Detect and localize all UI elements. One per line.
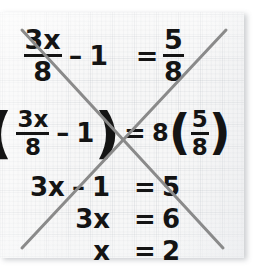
constant-one: 1 (76, 118, 94, 148)
equation-line-4: 3x = 6 (0, 204, 244, 234)
minus-operator: – (72, 172, 85, 202)
open-parenthesis: ( (0, 116, 12, 151)
equation-line-2: 8 ( 3x 8 – 1 ) = 8 ( 5 (0, 98, 244, 168)
line-3-left-side: 3x – 1 (30, 172, 110, 202)
worksheet-scan: 3x 8 – 1 = 5 8 8 ( (0, 0, 263, 271)
fraction-numerator: 5 (191, 108, 209, 131)
term-x: x (93, 236, 110, 266)
constant-one: 1 (89, 40, 108, 71)
line-4-right-side: 6 (162, 204, 180, 234)
minus-operator: – (56, 118, 69, 148)
fraction-5-over-8: 5 8 (163, 26, 184, 85)
fraction-denominator: 8 (163, 58, 184, 85)
equals-sign: = (134, 236, 156, 266)
value-6: 6 (162, 204, 180, 234)
coefficient-8: 8 (152, 119, 169, 147)
equation-line-1: 3x 8 – 1 = 5 8 (0, 20, 244, 90)
line-1-right-side: 5 8 (163, 20, 184, 90)
close-parenthesis: ) (209, 118, 231, 148)
fraction-numerator: 5 (163, 26, 184, 53)
fraction-5-over-8: 5 8 (191, 108, 209, 159)
close-parenthesis: ) (94, 116, 120, 151)
minus-operator: – (69, 40, 83, 71)
line-2-left-side: 8 ( 3x 8 – 1 ) (0, 98, 120, 168)
fraction-denominator: 8 (24, 136, 42, 159)
constant-one: 1 (92, 172, 110, 202)
line-3-right-side: 5 (162, 172, 180, 202)
line-5-right-side: 2 (162, 236, 180, 266)
equals-sign: = (124, 98, 146, 168)
fraction-numerator: 3x (24, 26, 62, 53)
fraction-numerator: 3x (16, 108, 49, 131)
fraction-denominator: 8 (32, 58, 53, 85)
line-5-left-side: x (93, 236, 110, 266)
fraction-3x-over-8: 3x 8 (24, 26, 62, 85)
line-4-left-side: 3x (75, 204, 110, 234)
equals-sign: = (134, 204, 156, 234)
equation-line-3: 3x – 1 = 5 (0, 172, 244, 202)
equals-sign: = (134, 172, 156, 202)
equals-sign: = (136, 20, 158, 90)
value-2: 2 (162, 236, 180, 266)
open-parenthesis: ( (169, 118, 191, 148)
line-1-left-side: 3x 8 – 1 (24, 20, 109, 90)
fraction-denominator: 8 (191, 136, 209, 159)
equation-work: 3x 8 – 1 = 5 8 8 ( (0, 12, 244, 258)
term-3x: 3x (75, 204, 110, 234)
term-3x: 3x (30, 172, 65, 202)
fraction-3x-over-8: 3x 8 (16, 108, 49, 159)
line-2-right-side: 8 ( 5 8 ) (152, 98, 231, 168)
value-5: 5 (162, 172, 180, 202)
equation-line-5: x = 2 (0, 236, 244, 266)
